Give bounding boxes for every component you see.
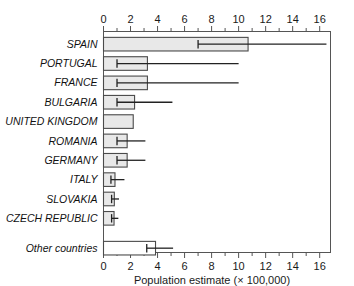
xtick-label-top: 14 bbox=[287, 13, 299, 25]
xtick-label-bottom: 16 bbox=[314, 260, 326, 272]
category-label: Other countries bbox=[26, 242, 99, 254]
category-label: GERMANY bbox=[44, 154, 98, 166]
category-label: BULGARIA bbox=[44, 96, 97, 108]
xtick-label-top: 2 bbox=[127, 13, 133, 25]
xtick-label-top: 4 bbox=[154, 13, 160, 25]
xtick-label-top: 12 bbox=[260, 13, 272, 25]
chart-canvas: 00224466881010121214141616SPAINPORTUGALF… bbox=[0, 0, 354, 286]
category-label: ROMANIA bbox=[48, 135, 97, 147]
bar-4 bbox=[104, 115, 134, 129]
xtick-label-bottom: 0 bbox=[100, 260, 106, 272]
xtick-label-top: 16 bbox=[314, 13, 326, 25]
xtick-label-bottom: 6 bbox=[182, 260, 188, 272]
xtick-label-bottom: 12 bbox=[260, 260, 272, 272]
xtick-label-bottom: 14 bbox=[287, 260, 299, 272]
xtick-label-bottom: 8 bbox=[209, 260, 215, 272]
category-label: SPAIN bbox=[67, 38, 98, 50]
category-label: PORTUGAL bbox=[40, 57, 98, 69]
category-label: UNITED KINGDOM bbox=[5, 115, 97, 127]
xtick-label-top: 6 bbox=[182, 13, 188, 25]
xtick-label-top: 8 bbox=[209, 13, 215, 25]
xtick-label-bottom: 10 bbox=[232, 260, 244, 272]
category-label: FRANCE bbox=[54, 76, 98, 88]
xtick-label-top: 0 bbox=[100, 13, 106, 25]
category-label: CZECH REPUBLIC bbox=[6, 212, 98, 224]
xtick-label-bottom: 2 bbox=[127, 260, 133, 272]
category-label: ITALY bbox=[70, 173, 98, 185]
xtick-label-top: 10 bbox=[232, 13, 244, 25]
xtick-label-bottom: 4 bbox=[154, 260, 160, 272]
category-label: SLOVAKIA bbox=[46, 193, 97, 205]
x-axis-title: Population estimate (× 100,000) bbox=[134, 274, 290, 286]
population-estimate-bar-chart: 00224466881010121214141616SPAINPORTUGALF… bbox=[0, 0, 354, 286]
